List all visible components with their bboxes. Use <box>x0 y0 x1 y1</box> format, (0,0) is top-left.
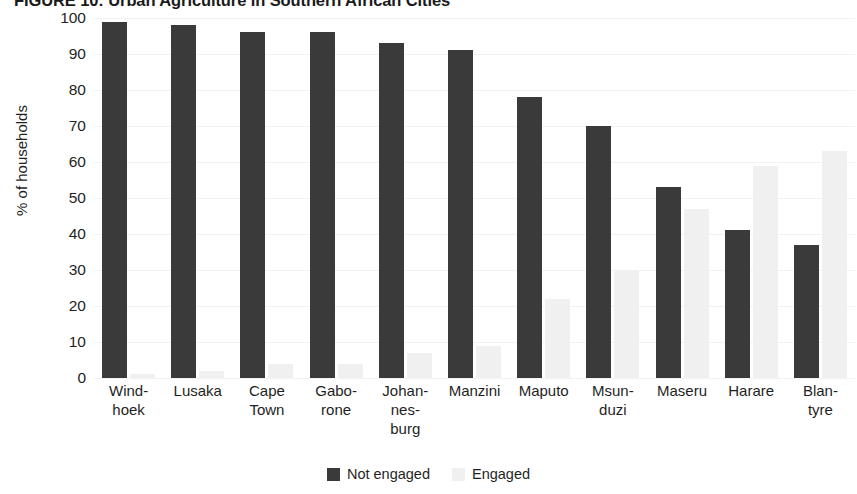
bar-group <box>509 18 578 378</box>
bar-engaged[interactable] <box>614 270 639 378</box>
y-axis-tick-labels: 1009080706050403020100 <box>40 18 86 378</box>
bar-not-engaged[interactable] <box>725 230 750 378</box>
bar-not-engaged[interactable] <box>310 32 335 378</box>
bar-engaged[interactable] <box>753 166 778 378</box>
bar-engaged[interactable] <box>268 364 293 378</box>
bar-group <box>440 18 509 378</box>
legend-label: Not engaged <box>347 466 430 482</box>
y-tick-label: 10 <box>40 333 86 351</box>
y-tick-label: 90 <box>40 45 86 63</box>
bar-engaged[interactable] <box>822 151 847 378</box>
x-tick-label: Wind-hoek <box>94 381 163 419</box>
chart-page: FIGURE 10: Urban Agriculture in Southern… <box>0 0 857 494</box>
bar-group <box>371 18 440 378</box>
bar-not-engaged[interactable] <box>102 22 127 378</box>
bar-group <box>302 18 371 378</box>
x-tick-label: Manzini <box>440 381 509 400</box>
bar-group <box>232 18 301 378</box>
bar-not-engaged[interactable] <box>517 97 542 378</box>
legend-swatch-icon <box>327 468 340 481</box>
bar-not-engaged[interactable] <box>586 126 611 378</box>
bar-engaged[interactable] <box>338 364 363 378</box>
bar-engaged[interactable] <box>684 209 709 378</box>
bar-not-engaged[interactable] <box>656 187 681 378</box>
bar-engaged[interactable] <box>407 353 432 378</box>
bar-not-engaged[interactable] <box>794 245 819 378</box>
bar-group <box>786 18 855 378</box>
y-tick-label: 70 <box>40 117 86 135</box>
legend-item[interactable]: Engaged <box>452 466 530 482</box>
bar-group <box>163 18 232 378</box>
y-tick-label: 30 <box>40 261 86 279</box>
x-tick-label: Blan-tyre <box>786 381 855 419</box>
x-axis-tick-labels: Wind-hoekLusakaCapeTownGabo-roneJohan-ne… <box>94 381 855 453</box>
legend-label: Engaged <box>472 466 530 482</box>
bar-engaged[interactable] <box>476 346 501 378</box>
y-tick-label: 80 <box>40 81 86 99</box>
bar-group <box>717 18 786 378</box>
bar-engaged[interactable] <box>199 371 224 378</box>
bar-engaged[interactable] <box>545 299 570 378</box>
x-tick-label: Maseru <box>647 381 716 400</box>
gridline <box>94 378 855 379</box>
y-tick-label: 60 <box>40 153 86 171</box>
bar-group <box>578 18 647 378</box>
y-tick-label: 20 <box>40 297 86 315</box>
x-tick-label: Maputo <box>509 381 578 400</box>
y-tick-label: 0 <box>40 369 86 387</box>
x-tick-label: Msun-duzi <box>578 381 647 419</box>
legend-swatch-icon <box>452 468 465 481</box>
x-tick-label: Harare <box>717 381 786 400</box>
y-tick-label: 100 <box>40 9 86 27</box>
bar-not-engaged[interactable] <box>448 50 473 378</box>
bar-group <box>647 18 716 378</box>
x-tick-label: Lusaka <box>163 381 232 400</box>
legend-item[interactable]: Not engaged <box>327 466 430 482</box>
x-tick-label: CapeTown <box>232 381 301 419</box>
y-axis-title: % of households <box>13 101 30 221</box>
y-tick-label: 50 <box>40 189 86 207</box>
y-tick-label: 40 <box>40 225 86 243</box>
bar-engaged[interactable] <box>130 374 155 378</box>
bar-not-engaged[interactable] <box>240 32 265 378</box>
bar-not-engaged[interactable] <box>171 25 196 378</box>
x-tick-label: Johan-nes-burg <box>371 381 440 438</box>
bar-not-engaged[interactable] <box>379 43 404 378</box>
x-tick-label: Gabo-rone <box>302 381 371 419</box>
bar-group <box>94 18 163 378</box>
plot-area <box>94 18 855 378</box>
chart-legend: Not engagedEngaged <box>0 466 857 482</box>
